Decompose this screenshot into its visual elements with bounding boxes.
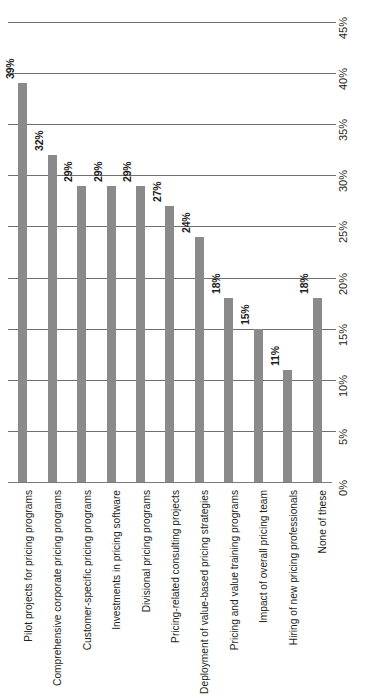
bar-group[interactable]: 29%: [126, 0, 155, 482]
bars-layer: 39%32%29%29%29%27%24%18%15%11%18%: [8, 0, 332, 483]
bar-value-label: 29%: [62, 168, 74, 182]
bar[interactable]: [77, 186, 86, 482]
y-tick-mark: [332, 124, 336, 125]
y-tick-mark: [332, 175, 336, 176]
y-tick-mark: [332, 226, 336, 227]
category-tick: Pricing and value training programs: [214, 488, 243, 688]
category-tick: Impact of overall pricing team: [244, 488, 273, 688]
y-tick-mark: [332, 278, 336, 279]
category-label: Hiring of new pricing professionals: [288, 490, 299, 645]
category-tick: Pilot projects for pricing programs: [8, 488, 37, 688]
category-label: None of these: [317, 490, 328, 553]
bar-value-label: 24%: [180, 219, 192, 233]
y-tick-label: 0%: [337, 480, 349, 496]
bar-group[interactable]: 15%: [244, 0, 273, 482]
category-tick: Pricing-related consulting projects: [155, 488, 184, 688]
plot-area: 39%32%29%29%29%27%24%18%15%11%18%: [8, 0, 332, 483]
bar-chart: 39%32%29%29%29%27%24%18%15%11%18% 0%5%10…: [0, 0, 380, 699]
category-tick: Divisional pricing programs: [126, 488, 155, 688]
category-axis: Pilot projects for pricing programsCompr…: [8, 488, 332, 688]
bar[interactable]: [283, 370, 292, 482]
bar-group[interactable]: 27%: [155, 0, 184, 482]
y-tick-label: 5%: [337, 429, 349, 445]
category-label: Investments in pricing software: [111, 490, 122, 630]
bar[interactable]: [165, 206, 174, 482]
bar-group[interactable]: 32%: [37, 0, 66, 482]
category-tick: Customer-specific pricing programs: [67, 488, 96, 688]
category-tick: Investments in pricing software: [96, 488, 125, 688]
bar-group[interactable]: 24%: [185, 0, 214, 482]
bar[interactable]: [18, 83, 27, 482]
y-tick-mark: [332, 22, 336, 23]
bar[interactable]: [224, 298, 233, 482]
category-label: Comprehensive corporate pricing programs: [52, 490, 63, 686]
bar-group[interactable]: 11%: [273, 0, 302, 482]
category-label: Pilot projects for pricing programs: [23, 490, 34, 642]
y-tick-label: 15%: [337, 324, 349, 346]
category-label: Pricing-related consulting projects: [170, 490, 181, 643]
bar-group[interactable]: 18%: [214, 0, 243, 482]
bar-value-label: 11%: [269, 352, 281, 366]
bar[interactable]: [313, 298, 322, 482]
bar[interactable]: [195, 237, 204, 482]
y-tick-mark: [332, 380, 336, 381]
y-tick-label: 25%: [337, 221, 349, 243]
bar-value-label: 29%: [92, 168, 104, 182]
category-label: Deployment of value-based pricing strate…: [199, 490, 210, 694]
y-tick-mark: [332, 431, 336, 432]
category-tick: Comprehensive corporate pricing programs: [37, 488, 66, 688]
bar-value-label: 27%: [151, 188, 163, 202]
bar[interactable]: [48, 155, 57, 482]
bar-value-label: 32%: [33, 137, 45, 151]
bar-group[interactable]: 29%: [67, 0, 96, 482]
category-label: Divisional pricing programs: [141, 490, 152, 612]
y-tick-label: 10%: [337, 375, 349, 397]
y-tick-label: 20%: [337, 273, 349, 295]
bar-value-label: 18%: [298, 280, 310, 294]
y-tick-label: 45%: [337, 17, 349, 39]
bar-value-label: 39%: [4, 65, 16, 79]
bar-group[interactable]: 39%: [8, 0, 37, 482]
bar-group[interactable]: 29%: [96, 0, 125, 482]
bar-value-label: 18%: [210, 280, 222, 294]
y-tick-label: 40%: [337, 68, 349, 90]
bar-group[interactable]: 18%: [303, 0, 332, 482]
bar[interactable]: [107, 186, 116, 482]
y-tick-label: 30%: [337, 170, 349, 192]
category-tick: Hiring of new pricing professionals: [273, 488, 302, 688]
category-label: Customer-specific pricing programs: [82, 490, 93, 650]
y-tick-mark: [332, 329, 336, 330]
bar-value-label: 15%: [239, 311, 251, 325]
bar[interactable]: [136, 186, 145, 482]
category-tick: Deployment of value-based pricing strate…: [185, 488, 214, 688]
y-tick-label: 35%: [337, 119, 349, 141]
y-tick-mark: [332, 73, 336, 74]
category-label: Impact of overall pricing team: [258, 490, 269, 623]
category-label: Pricing and value training programs: [229, 490, 240, 650]
category-tick: None of these: [303, 488, 332, 688]
bar-value-label: 29%: [121, 168, 133, 182]
bar[interactable]: [254, 329, 263, 482]
y-axis: 0%5%10%15%20%25%30%35%40%45%: [332, 0, 380, 483]
